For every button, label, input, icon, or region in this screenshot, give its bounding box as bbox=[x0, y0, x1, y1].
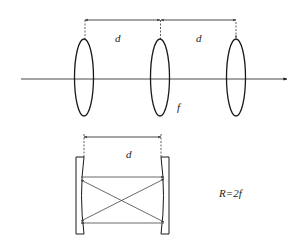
lens-waveguide: d d f bbox=[21, 20, 287, 116]
label-spacing-d: d bbox=[126, 148, 132, 160]
ray-diagonal-down bbox=[81, 180, 164, 222]
lens-1 bbox=[75, 39, 94, 116]
label-spacing-d1: d bbox=[115, 32, 121, 44]
label-focal-length: f bbox=[177, 101, 182, 113]
label-radius-relation: R=2f bbox=[218, 187, 244, 199]
mirror-left bbox=[76, 157, 84, 234]
mirror-resonator: d R=2f bbox=[76, 134, 244, 234]
mirror-right bbox=[161, 157, 169, 234]
lens-2 bbox=[151, 39, 170, 116]
ray-diagonal-up bbox=[81, 179, 164, 221]
label-spacing-d2: d bbox=[196, 32, 202, 44]
lens-3 bbox=[227, 39, 246, 116]
optics-diagram: d d f d R=2f bbox=[0, 0, 300, 250]
